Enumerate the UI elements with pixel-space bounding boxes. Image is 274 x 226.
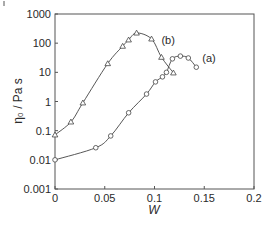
y-axis-ticks: 0.0010.010.11101001000 xyxy=(23,8,58,195)
viscosity-chart: 0.0010.010.11101001000 00.050.10.150.2 (… xyxy=(0,0,274,226)
x-tick-label: 0.15 xyxy=(194,192,215,204)
series-label: (a) xyxy=(202,52,215,64)
y-tick-label: 0.01 xyxy=(30,154,51,166)
triangle-marker xyxy=(80,100,86,105)
y-tick-label: 1 xyxy=(45,96,51,108)
circle-marker xyxy=(126,110,131,115)
series-curve xyxy=(55,56,196,160)
series-label: (b) xyxy=(161,34,174,46)
circle-marker xyxy=(53,158,58,163)
y-tick-label: 0.1 xyxy=(36,125,51,137)
x-tick-label: 0 xyxy=(52,192,58,204)
y-tick-label: 0.001 xyxy=(23,183,51,195)
plot-frame xyxy=(55,14,254,189)
circle-marker xyxy=(108,134,113,139)
circle-marker xyxy=(178,54,183,59)
circle-marker xyxy=(160,75,165,80)
x-tick-label: 0.2 xyxy=(246,192,261,204)
series-a: (a) xyxy=(53,52,216,162)
circle-marker xyxy=(170,57,175,62)
x-axis-label: W xyxy=(148,203,161,217)
y-axis-label: η₀ / Pa s xyxy=(11,78,25,124)
circle-marker xyxy=(164,70,169,75)
series-layer: (a)(b) xyxy=(52,30,216,162)
circle-marker xyxy=(186,56,191,61)
circle-marker xyxy=(194,65,199,70)
y-tick-label: 1000 xyxy=(27,8,51,20)
circle-marker xyxy=(93,145,98,150)
circle-marker xyxy=(144,92,149,97)
x-tick-label: 0.05 xyxy=(94,192,115,204)
y-tick-label: 10 xyxy=(39,66,51,78)
y-tick-label: 100 xyxy=(33,37,51,49)
triangle-marker xyxy=(159,54,165,59)
triangle-marker xyxy=(52,132,58,137)
circle-marker xyxy=(153,80,158,85)
